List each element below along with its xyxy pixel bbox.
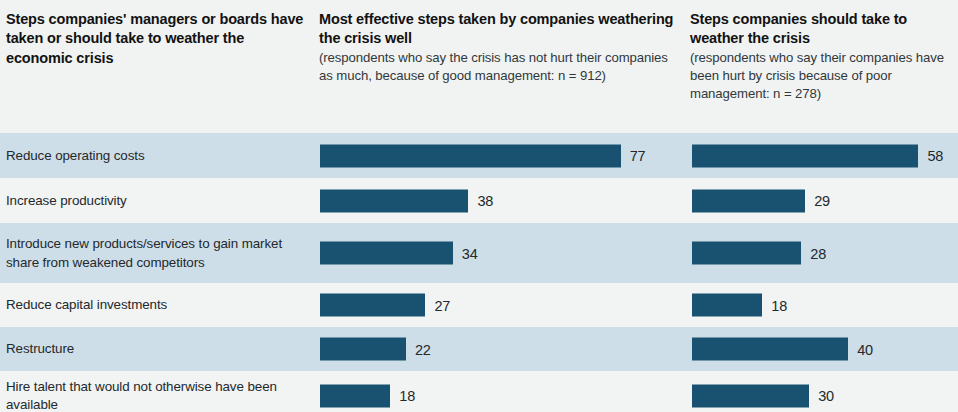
table-row: Reduce capital investments2718 bbox=[0, 283, 958, 327]
bar-group-series-1: 27 bbox=[320, 294, 450, 317]
bar bbox=[692, 189, 805, 212]
bar-group-series-1: 38 bbox=[320, 189, 493, 212]
bar-group-series-2: 40 bbox=[692, 338, 873, 361]
bar bbox=[692, 294, 762, 317]
bar bbox=[320, 144, 621, 167]
header-title-series-1: Most effective steps taken by companies … bbox=[319, 10, 674, 49]
bar-value-label: 34 bbox=[462, 245, 478, 261]
chart-header: Steps companies' managers or boards have… bbox=[0, 0, 958, 133]
bar-group-series-1: 18 bbox=[320, 384, 415, 407]
bar-value-label: 28 bbox=[810, 245, 826, 261]
bar-group-series-2: 30 bbox=[692, 384, 834, 407]
bar-value-label: 40 bbox=[857, 341, 873, 357]
bar-value-label: 18 bbox=[399, 388, 415, 404]
table-row: Hire talent that would not otherwise hav… bbox=[0, 371, 958, 412]
header-title-series-2: Steps companies should take to weather t… bbox=[690, 10, 952, 49]
bar bbox=[320, 384, 390, 407]
bar bbox=[320, 294, 425, 317]
header-subtitle-series-1: (respondents who say the crisis has not … bbox=[319, 49, 674, 85]
chart-rows: Reduce operating costs7758Increase produ… bbox=[0, 133, 958, 412]
bar-value-label: 30 bbox=[818, 388, 834, 404]
row-label: Hire talent that would not otherwise hav… bbox=[6, 377, 306, 412]
bar-value-label: 29 bbox=[814, 193, 830, 209]
row-label: Reduce capital investments bbox=[6, 296, 306, 315]
table-row: Increase productivity3829 bbox=[0, 178, 958, 223]
table-row: Reduce operating costs7758 bbox=[0, 133, 958, 178]
bar bbox=[320, 338, 406, 361]
row-label: Introduce new products/services to gain … bbox=[6, 235, 306, 272]
bar-value-label: 38 bbox=[477, 193, 493, 209]
bar-group-series-2: 29 bbox=[692, 189, 830, 212]
bar bbox=[692, 144, 918, 167]
bar-group-series-2: 18 bbox=[692, 294, 787, 317]
bar-group-series-1: 77 bbox=[320, 144, 645, 167]
table-row: Introduce new products/services to gain … bbox=[0, 223, 958, 283]
bar bbox=[692, 338, 848, 361]
header-column-series-2: Steps companies should take to weather t… bbox=[690, 10, 952, 103]
bar-group-series-1: 22 bbox=[320, 338, 431, 361]
bar-group-series-2: 58 bbox=[692, 144, 943, 167]
bar-value-label: 18 bbox=[771, 297, 787, 313]
row-label: Restructure bbox=[6, 340, 306, 359]
bar-group-series-1: 34 bbox=[320, 242, 478, 265]
header-column-categories: Steps companies' managers or boards have… bbox=[6, 10, 306, 68]
chart-container: Steps companies' managers or boards have… bbox=[0, 0, 958, 412]
bar bbox=[320, 189, 468, 212]
bar-value-label: 77 bbox=[630, 148, 646, 164]
table-row: Restructure2240 bbox=[0, 327, 958, 371]
row-label: Increase productivity bbox=[6, 191, 306, 210]
bar bbox=[320, 242, 453, 265]
row-label: Reduce operating costs bbox=[6, 146, 306, 165]
header-column-series-1: Most effective steps taken by companies … bbox=[319, 10, 674, 85]
bar-value-label: 27 bbox=[434, 297, 450, 313]
header-subtitle-series-2: (respondents who say their companies hav… bbox=[690, 49, 952, 103]
bar-value-label: 58 bbox=[927, 148, 943, 164]
bar bbox=[692, 384, 809, 407]
bar-group-series-2: 28 bbox=[692, 242, 826, 265]
header-title-categories: Steps companies' managers or boards have… bbox=[6, 10, 306, 68]
bar-value-label: 22 bbox=[415, 341, 431, 357]
bar bbox=[692, 242, 801, 265]
